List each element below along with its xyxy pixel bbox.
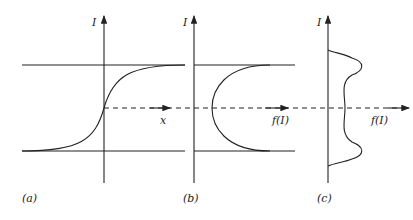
panel-b-axis-label: I (183, 16, 187, 29)
panel-c-x-label: f(I) (371, 114, 388, 127)
panel-a-axis-label: I (92, 16, 96, 29)
figure: I x (a) I f(I) (b) I f(I) (c) (0, 0, 413, 220)
panel-a-x-label: x (160, 114, 166, 127)
panel-a-caption: (a) (22, 192, 37, 205)
panel-c-axis-label: I (317, 16, 321, 29)
panel-b-caption: (b) (183, 192, 199, 205)
panel-c-caption: (c) (317, 192, 332, 205)
panel-b-x-label: f(I) (272, 114, 289, 127)
diagram-canvas (0, 0, 413, 220)
